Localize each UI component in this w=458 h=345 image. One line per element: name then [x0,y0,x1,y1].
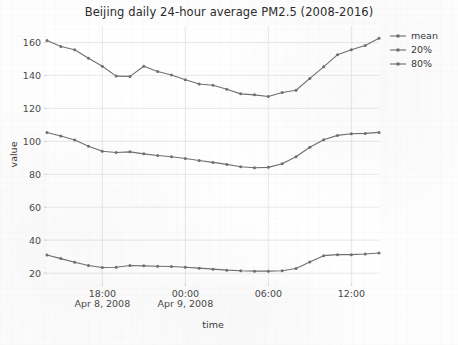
data-point [253,166,256,169]
chart-plot-svg: 2040608010012014016018:00Apr 8, 200800:0… [0,0,458,345]
y-axis-tick-label: 140 [23,70,41,81]
data-point [295,89,298,92]
data-point [129,264,132,267]
legend-item-20pct[interactable]: 20% [390,44,432,55]
data-point [198,82,201,85]
data-point [364,132,367,135]
y-axis-tick-label: 40 [29,235,41,246]
data-point [184,78,187,81]
data-point [46,131,49,134]
legend-label: 20% [411,44,432,55]
data-point [101,65,104,68]
data-point [239,165,242,168]
data-point [101,150,104,153]
data-point [156,154,159,157]
data-point [281,162,284,165]
data-point [364,253,367,256]
data-point [156,70,159,73]
data-point [350,48,353,51]
x-axis-tick-sublabel: Apr 9, 2008 [157,298,213,309]
y-axis-tick-label: 60 [29,202,41,213]
data-point [267,270,270,273]
x-axis-label: time [202,319,224,330]
data-point [212,268,215,271]
y-axis-tick-label: 160 [23,37,41,48]
data-point [378,252,381,255]
data-point [59,45,62,48]
data-point [73,261,76,264]
data-point [281,269,284,272]
data-point [225,88,228,91]
legend-swatch-marker [396,34,400,38]
data-point [129,150,132,153]
legend-swatch-marker [396,48,400,52]
data-point [322,254,325,257]
data-point [350,253,353,256]
data-point [336,53,339,56]
data-point [87,264,90,267]
legend-swatch-marker [396,62,400,66]
y-axis-tick-label: 20 [29,268,41,279]
data-point [156,265,159,268]
plot-background [47,26,379,283]
data-point [59,135,62,138]
legend-item-mean[interactable]: mean [390,30,438,41]
data-point [239,92,242,95]
legend-item-80pct[interactable]: 80% [390,58,432,69]
data-point [308,260,311,263]
data-point [225,269,228,272]
legend-label: mean [411,30,438,41]
data-point [336,253,339,256]
data-point [322,138,325,141]
data-point [378,37,381,40]
data-point [46,39,49,42]
y-axis-tick-label: 80 [29,169,41,180]
data-point [281,91,284,94]
data-point [350,132,353,135]
data-point [212,84,215,87]
data-point [295,267,298,270]
data-point [129,75,132,78]
legend-label: 80% [411,58,432,69]
data-point [336,134,339,137]
data-point [308,146,311,149]
data-point [267,166,270,169]
x-axis-tick-label: 06:00 [255,288,282,299]
y-axis-label: value [8,141,19,167]
data-point [142,65,145,68]
data-point [170,265,173,268]
data-point [87,145,90,148]
chart-container: Beijing daily 24-hour average PM2.5 (200… [0,0,458,345]
data-point [73,139,76,142]
data-point [225,163,228,166]
data-point [59,257,62,260]
data-point [87,57,90,60]
data-point [170,74,173,77]
data-point [115,151,118,154]
data-point [115,75,118,78]
data-point [101,266,104,269]
x-axis-tick-sublabel: Apr 8, 2008 [74,298,130,309]
data-point [198,267,201,270]
data-point [184,266,187,269]
data-point [212,161,215,164]
data-point [46,253,49,256]
data-point [115,266,118,269]
data-point [239,269,242,272]
data-point [267,95,270,98]
data-point [364,44,367,47]
data-point [295,155,298,158]
data-point [170,155,173,158]
data-point [198,159,201,162]
y-axis-tick-label: 120 [23,103,41,114]
data-point [378,131,381,134]
data-point [142,152,145,155]
x-axis-tick-label: 12:00 [338,288,365,299]
data-point [253,93,256,96]
data-point [322,65,325,68]
data-point [184,157,187,160]
data-point [73,48,76,51]
y-axis-tick-label: 100 [23,136,41,147]
data-point [253,270,256,273]
data-point [308,77,311,80]
